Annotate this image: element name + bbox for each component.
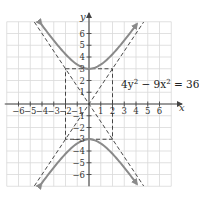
y-tick-label: −1 bbox=[72, 111, 85, 121]
y-tick-label: −2 bbox=[72, 123, 85, 133]
x-tick-label: −5 bbox=[24, 106, 37, 116]
x-tick-label: −6 bbox=[12, 106, 25, 116]
x-tick-label: 5 bbox=[145, 106, 150, 116]
hyperbola-graph: −6−5−4−3−2−1123456654321−1−2−3−4−5−6 y x… bbox=[0, 0, 199, 200]
equation-label: 4y2 − 9x2 = 36 bbox=[121, 78, 199, 90]
y-tick-label: 1 bbox=[80, 87, 85, 97]
x-axis-label: x bbox=[179, 102, 185, 113]
y-tick-label: −3 bbox=[72, 134, 85, 144]
y-tick-label: 4 bbox=[80, 52, 85, 62]
x-tick-label: −4 bbox=[36, 106, 49, 116]
y-tick-label: 6 bbox=[80, 29, 85, 39]
y-tick-label: 2 bbox=[80, 76, 85, 86]
y-axis-label: y bbox=[79, 11, 86, 22]
x-tick-label: 6 bbox=[157, 106, 162, 116]
x-tick-label: 3 bbox=[122, 106, 127, 116]
x-tick-label: 1 bbox=[98, 106, 103, 116]
y-tick-label: −6 bbox=[72, 170, 85, 180]
x-tick-label: −3 bbox=[47, 106, 60, 116]
y-tick-label: −5 bbox=[72, 158, 85, 168]
y-tick-label: 5 bbox=[80, 40, 85, 50]
axes bbox=[5, 13, 182, 186]
y-tick-label: −4 bbox=[72, 146, 85, 156]
y-tick-label: 3 bbox=[80, 64, 85, 74]
x-tick-label: 4 bbox=[133, 106, 138, 116]
x-tick-label: −2 bbox=[59, 106, 72, 116]
x-tick-label: 2 bbox=[110, 106, 115, 116]
